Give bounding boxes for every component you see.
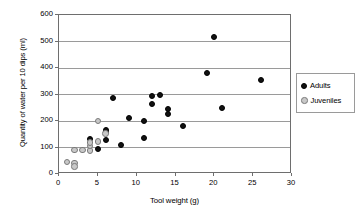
y-tick-label: 400 [23, 63, 53, 71]
data-point-adults [149, 93, 155, 99]
data-point-juveniles [95, 118, 102, 125]
data-point-juveniles [64, 159, 71, 166]
data-point-adults [219, 105, 225, 111]
x-tick-label: 25 [240, 179, 264, 187]
data-point-juveniles [71, 163, 78, 170]
x-tick-mark [213, 173, 214, 176]
y-tick-label: 300 [23, 90, 53, 98]
x-tick-label: 10 [124, 179, 148, 187]
x-tick-label: 15 [163, 179, 187, 187]
chart-legend: AdultsJuveniles [296, 73, 355, 113]
x-tick-label: 0 [46, 179, 70, 187]
y-tick-label: 100 [23, 143, 53, 151]
legend-label: Juveniles [311, 97, 342, 105]
x-tick-mark [97, 173, 98, 176]
gridline [59, 94, 290, 95]
gridline [59, 41, 290, 42]
x-tick-label: 5 [85, 179, 109, 187]
legend-item-juveniles: Juveniles [301, 93, 354, 108]
gridline [59, 68, 290, 69]
x-tick-mark [175, 173, 176, 176]
x-tick-mark [291, 173, 292, 176]
data-point-juveniles [102, 130, 109, 137]
data-point-adults [141, 118, 147, 124]
data-point-adults [95, 146, 101, 152]
data-point-juveniles [79, 147, 86, 154]
gridline [59, 147, 290, 148]
legend-item-adults: Adults [301, 78, 354, 93]
legend-label: Adults [310, 82, 331, 90]
y-tick-label: 500 [23, 37, 53, 45]
scatter-chart-figure: Quantity of water per 10 dips (ml) Tool … [0, 0, 359, 219]
data-point-adults [149, 101, 155, 107]
data-point-adults [103, 137, 109, 143]
x-tick-mark [58, 173, 59, 176]
data-point-adults [110, 95, 116, 101]
data-point-adults [141, 135, 147, 141]
legend-marker-juveniles-icon [301, 97, 308, 104]
y-tick-label: 200 [23, 116, 53, 124]
data-point-adults [165, 111, 171, 117]
data-point-juveniles [95, 138, 102, 145]
x-tick-mark [252, 173, 253, 176]
data-point-adults [258, 77, 264, 83]
x-tick-mark [136, 173, 137, 176]
y-tick-label: 0 [23, 169, 53, 177]
legend-marker-adults-icon [301, 83, 307, 89]
gridline [59, 121, 290, 122]
plot-area [58, 14, 291, 173]
y-tick-label: 600 [23, 10, 53, 18]
data-point-adults [204, 70, 210, 76]
data-point-juveniles [71, 147, 78, 154]
x-axis-title: Tool weight (g) [58, 196, 291, 205]
data-point-adults [180, 123, 186, 129]
data-point-adults [157, 92, 163, 98]
data-point-adults [211, 34, 217, 40]
x-tick-label: 20 [201, 179, 225, 187]
x-tick-label: 30 [279, 179, 303, 187]
